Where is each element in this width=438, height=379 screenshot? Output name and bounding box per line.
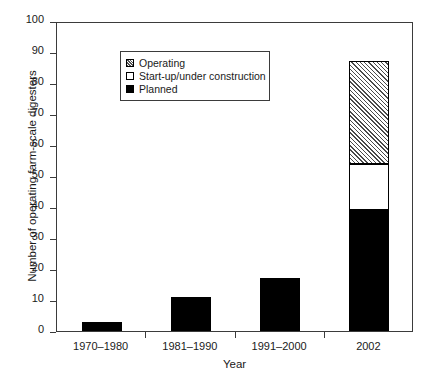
legend-item: Start-up/under construction <box>126 70 264 82</box>
x-axis-tick-mark <box>145 332 146 338</box>
legend-item: Planned <box>126 83 264 95</box>
bar-segment-planned <box>171 297 211 331</box>
y-axis-tick-label: 80 <box>32 76 44 87</box>
plot-area: OperatingStart-up/under constructionPlan… <box>56 22 413 332</box>
y-axis-tick-label: 20 <box>32 262 44 273</box>
x-axis-tick-label: 2002 <box>324 340 413 352</box>
bar-segment-planned <box>260 278 300 331</box>
hatched-square-icon <box>126 59 134 67</box>
bar-segment-startup <box>349 164 389 211</box>
chart-legend: OperatingStart-up/under constructionPlan… <box>120 51 270 101</box>
y-axis-tick-label: 100 <box>26 14 44 25</box>
y-axis-tick-label: 0 <box>38 324 44 335</box>
y-axis-tick-mark <box>50 332 56 333</box>
y-axis-tick-label: 60 <box>32 138 44 149</box>
x-axis-tick-label: 1970–1980 <box>56 340 145 352</box>
bar-segment-planned <box>82 322 122 331</box>
bar-segment-planned <box>349 210 389 331</box>
legend-item: Operating <box>126 57 264 69</box>
legend-item-label: Operating <box>139 58 185 69</box>
y-axis-tick-label: 30 <box>32 231 44 242</box>
white-square-icon <box>126 72 134 80</box>
black-square-icon <box>126 85 134 93</box>
chart-figure: Number of operating farm-scale digesters… <box>0 0 438 379</box>
y-axis-tick-label: 50 <box>32 169 44 180</box>
bar-segment-operating <box>349 61 389 163</box>
x-axis-tick-label: 1981–1990 <box>145 340 234 352</box>
y-axis-tick-label: 70 <box>32 107 44 118</box>
x-axis-tick-mark <box>235 332 236 338</box>
legend-item-label: Start-up/under construction <box>139 71 266 82</box>
legend-item-label: Planned <box>139 84 178 95</box>
y-axis-tick-label: 40 <box>32 200 44 211</box>
bar-group <box>349 21 389 331</box>
x-axis-tick-mark <box>324 332 325 338</box>
y-axis-tick-label: 10 <box>32 293 44 304</box>
x-axis-tick-label: 1991–2000 <box>235 340 324 352</box>
x-axis-title: Year <box>56 358 413 370</box>
bar-group <box>82 21 122 331</box>
y-axis-tick-label: 90 <box>32 45 44 56</box>
